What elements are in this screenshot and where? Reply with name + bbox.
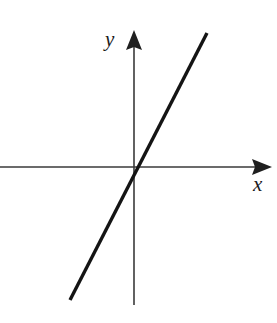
y-axis-label: y xyxy=(105,29,114,50)
coordinate-plane-svg xyxy=(0,0,277,323)
arrow-up-icon xyxy=(126,30,142,50)
x-axis-label: x xyxy=(253,174,262,195)
graph-figure: y x xyxy=(0,0,277,323)
